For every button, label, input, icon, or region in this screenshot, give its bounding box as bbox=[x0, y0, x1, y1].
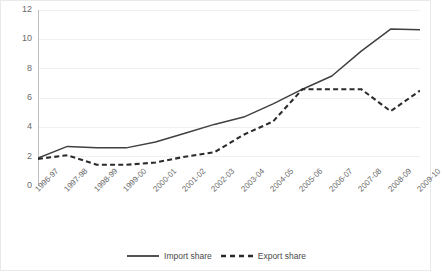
solid-line-icon bbox=[126, 252, 160, 260]
series-line-1 bbox=[38, 29, 420, 158]
plot-area bbox=[38, 10, 420, 186]
y-tick-label: 0 bbox=[8, 181, 32, 190]
y-tick-label: 12 bbox=[8, 5, 32, 14]
legend-item-1[interactable]: Import share bbox=[126, 252, 212, 261]
dashed-line-icon bbox=[220, 252, 254, 260]
chart-legend: Import shareExport share bbox=[0, 248, 432, 264]
y-tick-label: 8 bbox=[8, 64, 32, 73]
y-tick-label: 4 bbox=[8, 122, 32, 131]
y-tick-label: 2 bbox=[8, 152, 32, 161]
chart-plot-svg bbox=[38, 10, 420, 186]
y-tick-label: 6 bbox=[8, 93, 32, 102]
y-axis: 121086420 bbox=[4, 0, 32, 196]
legend-label: Import share bbox=[164, 252, 212, 261]
series-layer bbox=[38, 29, 420, 165]
legend-label: Export share bbox=[258, 252, 306, 261]
y-tick-label: 10 bbox=[8, 34, 32, 43]
gridlines bbox=[38, 10, 420, 186]
legend-item-2[interactable]: Export share bbox=[220, 252, 306, 261]
x-axis: 1996-971997-981998-991999-002000-012001-… bbox=[38, 188, 420, 244]
